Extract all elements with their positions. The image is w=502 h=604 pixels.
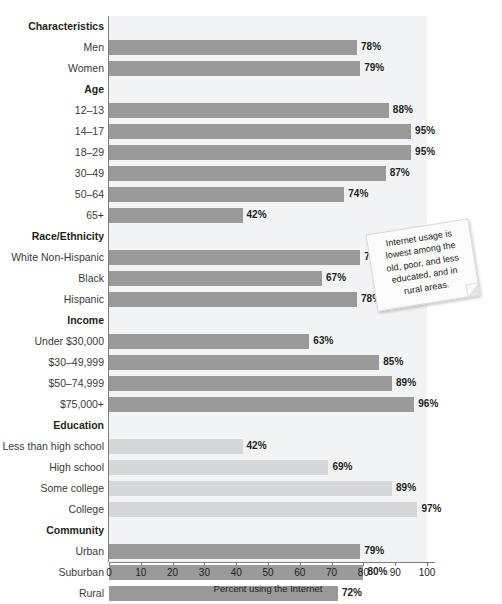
bar [109, 40, 357, 55]
bar-row: Women79% [0, 58, 502, 79]
x-axis-tick-label: 50 [253, 567, 283, 578]
bar-value-label: 96% [418, 396, 438, 412]
x-axis-tick [236, 562, 237, 566]
bar [109, 544, 360, 559]
bar-row-label: $75,000+ [60, 394, 104, 415]
bar [109, 355, 379, 370]
bar-value-label: 42% [247, 207, 267, 223]
section-heading-label: Education [53, 415, 104, 436]
bar-row-label: 30–49 [75, 163, 104, 184]
bar-row-label: 65+ [86, 205, 104, 226]
bar [109, 439, 243, 454]
bar-row: $50–74,99989% [0, 373, 502, 394]
section-heading-label: Age [84, 79, 104, 100]
x-axis-tick [173, 562, 174, 566]
x-axis-title: Percent using the Internet [109, 583, 427, 594]
bar-value-label: 95% [415, 144, 435, 160]
bar-row: $75,000+96% [0, 394, 502, 415]
bar-row: College97% [0, 499, 502, 520]
bar-row-label: Hispanic [64, 289, 104, 310]
bar-row: High school69% [0, 457, 502, 478]
bar-row: 12–1388% [0, 100, 502, 121]
bar-row: 50–6474% [0, 184, 502, 205]
bar-value-label: 63% [313, 333, 333, 349]
bar-row-label: Black [78, 268, 104, 289]
bar-row-label: Less than high school [2, 436, 104, 457]
bar-value-label: 69% [332, 459, 352, 475]
bar [109, 397, 414, 412]
bar-value-label: 74% [348, 186, 368, 202]
bar [109, 460, 328, 475]
bar-value-label: 88% [393, 102, 413, 118]
bar-value-label: 95% [415, 123, 435, 139]
bar-row-label: Urban [75, 541, 104, 562]
x-axis-tick [268, 562, 269, 566]
section-heading-label: Community [46, 520, 104, 541]
x-axis-tick-label: 40 [221, 567, 251, 578]
bar-row: Men78% [0, 37, 502, 58]
x-axis-tick-label: 30 [189, 567, 219, 578]
bar [109, 250, 360, 265]
x-axis-tick [363, 562, 364, 566]
bar [109, 145, 411, 160]
x-axis-tick-label: 20 [158, 567, 188, 578]
x-axis-tick [332, 562, 333, 566]
x-axis-tick-label: 100 [412, 567, 442, 578]
bar-row-label: $30–49,999 [49, 352, 104, 373]
x-axis-tick-label: 90 [380, 567, 410, 578]
x-axis-tick-label: 60 [285, 567, 315, 578]
bar-row-label: Under $30,000 [35, 331, 104, 352]
bar [109, 103, 389, 118]
x-axis-tick-label: 0 [94, 567, 124, 578]
section-heading-row: Age [0, 79, 502, 100]
bar [109, 61, 360, 76]
bar-value-label: 79% [364, 543, 384, 559]
bar-row-label: College [68, 499, 104, 520]
x-axis-tick [427, 562, 428, 566]
callout-fold-corner [466, 283, 480, 297]
bar [109, 124, 411, 139]
bar-row: 30–4987% [0, 163, 502, 184]
bar-row-label: 50–64 [75, 184, 104, 205]
bar-value-label: 42% [247, 438, 267, 454]
bar-value-label: 79% [364, 60, 384, 76]
x-axis-tick-label: 80 [348, 567, 378, 578]
bar-value-label: 89% [396, 375, 416, 391]
bar-row: Urban79% [0, 541, 502, 562]
bar-row: Some college89% [0, 478, 502, 499]
bar-row: Less than high school42% [0, 436, 502, 457]
bar [109, 376, 392, 391]
bar-row: $30–49,99985% [0, 352, 502, 373]
callout-note: Internet usage islowest among theold, po… [366, 218, 481, 311]
bar-row-label: 12–13 [75, 100, 104, 121]
bar [109, 334, 309, 349]
bar [109, 292, 357, 307]
section-heading-row: Income [0, 310, 502, 331]
bar-row-label: High school [49, 457, 104, 478]
bar [109, 166, 386, 181]
bar-value-label: 87% [390, 165, 410, 181]
bar-row-label: Men [84, 37, 104, 58]
x-axis-tick-label: 70 [317, 567, 347, 578]
section-heading-label: Income [67, 310, 104, 331]
bar-row-label: Rural [79, 583, 104, 604]
x-axis-tick [300, 562, 301, 566]
bar-row-label: 14–17 [75, 121, 104, 142]
section-heading-row: Education [0, 415, 502, 436]
bar [109, 208, 243, 223]
section-heading-row: Characteristics [0, 16, 502, 37]
bar [109, 187, 344, 202]
section-heading-label: Race/Ethnicity [32, 226, 104, 247]
bar-row: 18–2995% [0, 142, 502, 163]
bar [109, 481, 392, 496]
bar-value-label: 97% [421, 501, 441, 517]
bar-row: Under $30,00063% [0, 331, 502, 352]
bar-row: 14–1795% [0, 121, 502, 142]
bar-value-label: 89% [396, 480, 416, 496]
x-axis-tick [141, 562, 142, 566]
x-axis-tick [395, 562, 396, 566]
x-axis-tick [109, 562, 110, 566]
callout-note-text: Internet usage islowest among theold, po… [373, 225, 472, 300]
bar-row: 65+42% [0, 205, 502, 226]
